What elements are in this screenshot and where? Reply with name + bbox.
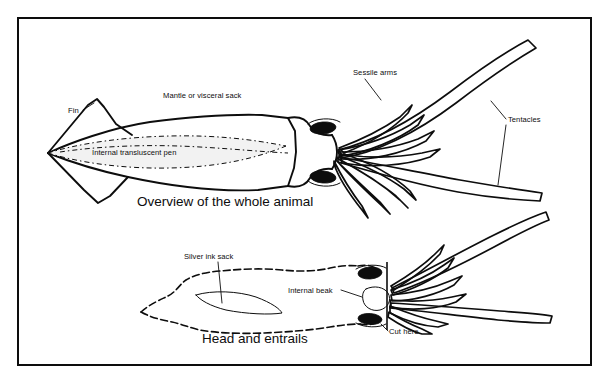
- label-sessile-arms-group: Sessile arms: [353, 68, 397, 100]
- tentacle2-lower: [390, 303, 552, 323]
- figure-root: Fin Mantle or visceral sack Internal tra…: [0, 0, 609, 386]
- label-cut-here: Cut here: [389, 327, 419, 336]
- caption-head-entrails: Head and entrails: [202, 331, 308, 346]
- label-tentacles: Tentacles: [508, 115, 541, 124]
- label-tentacles-group: Tentacles: [491, 101, 541, 185]
- panel-head-entrails: Silver ink sack Internal beak Cut here H…: [141, 212, 552, 346]
- leader-silver-ink-sack: [218, 262, 222, 303]
- label-internal-beak-group: Internal beak: [288, 286, 362, 297]
- leader-sessile-arms: [365, 79, 381, 100]
- leader-internal-beak: [341, 290, 362, 297]
- lower-figure-arms: [388, 245, 466, 334]
- arm-l3: [336, 160, 390, 214]
- arm-l1: [339, 154, 416, 200]
- label-fin: Fin: [68, 106, 79, 115]
- tentacle-upper: [338, 40, 536, 158]
- label-silver-ink-sack: Silver ink sack: [184, 252, 233, 261]
- silver-ink-sack-shape: [196, 292, 282, 314]
- sessile-arms-upper: [339, 105, 440, 166]
- panel-whole-animal: Fin Mantle or visceral sack Internal tra…: [48, 40, 542, 218]
- eye-icon-lower: [310, 170, 337, 184]
- eye-icon-lower-fig-lower: [358, 313, 383, 326]
- eye-icon-lower-fig-upper: [358, 266, 383, 280]
- label-pen: Internal transluscent pen: [92, 148, 176, 157]
- label-mantle: Mantle or visceral sack: [163, 91, 242, 100]
- label-internal-beak: Internal beak: [288, 286, 333, 295]
- label-sessile-arms: Sessile arms: [353, 68, 397, 77]
- leader-tentacles-lower: [498, 125, 506, 185]
- internal-beak-shape: [363, 287, 390, 311]
- caption-whole-animal: Overview of the whole animal: [137, 194, 313, 209]
- leader-tentacles-upper: [491, 101, 506, 119]
- squid-anatomy-diagram: Fin Mantle or visceral sack Internal tra…: [0, 0, 609, 386]
- label-ink-sack-group: Silver ink sack: [184, 252, 233, 303]
- eye-icon-upper: [310, 121, 337, 135]
